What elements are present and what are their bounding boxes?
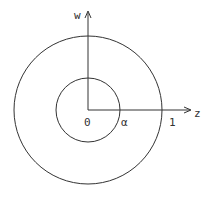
annulus-diagram: w z 0 α 1 xyxy=(0,0,209,200)
one-label: 1 xyxy=(169,116,176,129)
w-axis-label: w xyxy=(74,9,81,22)
z-axis-label: z xyxy=(194,107,201,120)
origin-label: 0 xyxy=(84,116,91,129)
alpha-label: α xyxy=(121,116,128,129)
